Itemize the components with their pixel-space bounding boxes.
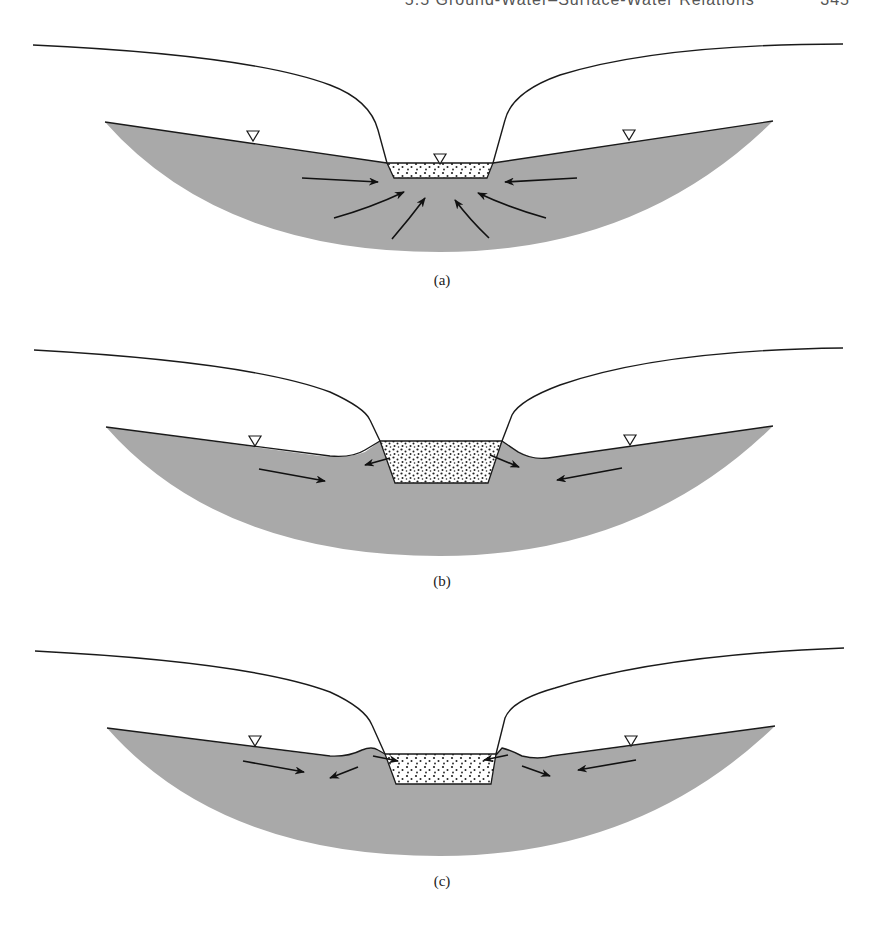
water-table-icon [623, 130, 635, 140]
water-table-icon [249, 736, 261, 746]
stream-water-c [385, 754, 496, 784]
panel-a [33, 44, 843, 252]
aquifer-c [107, 726, 775, 856]
aquifer-a [105, 121, 773, 252]
panel-label-a: (a) [434, 272, 451, 289]
water-table-icon [624, 435, 636, 445]
panel-label-b: (b) [433, 573, 451, 590]
water-table-icon [249, 436, 261, 446]
stream-water-b [380, 441, 502, 483]
stream-water-a [387, 163, 493, 178]
panel-b [34, 348, 843, 556]
panel-label-c: (c) [434, 873, 451, 890]
water-table-icon [247, 131, 259, 141]
land-surface-b [34, 348, 843, 441]
stream-aquifer-figure [0, 0, 880, 930]
panel-c [35, 648, 844, 856]
